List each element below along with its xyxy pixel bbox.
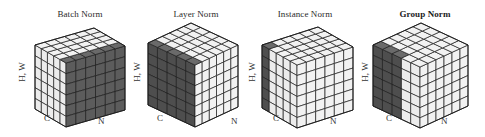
panel-title-batch-norm: Batch Norm: [57, 9, 102, 19]
panel-title-group-norm: Group Norm: [399, 9, 450, 19]
axis-label-c: C: [157, 113, 163, 123]
cubes-canvas: [0, 0, 485, 137]
panel-title-instance-norm: Instance Norm: [278, 9, 333, 19]
axis-label-n: N: [98, 116, 105, 126]
axis-label-hw: H, W: [17, 62, 27, 81]
axis-label-hw: H, W: [360, 62, 370, 81]
axis-label-c: C: [44, 113, 50, 123]
axis-label-hw: H, W: [247, 62, 257, 81]
normalization-methods-figure: Batch Norm Layer Norm Instance Norm Grou…: [0, 0, 485, 137]
panel-title-layer-norm: Layer Norm: [173, 9, 218, 19]
axis-label-c: C: [273, 113, 279, 123]
axis-label-n: N: [330, 116, 337, 126]
axis-label-n: N: [231, 116, 238, 126]
axis-label-n: N: [441, 116, 448, 126]
axis-label-c: C: [386, 113, 392, 123]
axis-label-hw: H, W: [132, 62, 142, 81]
